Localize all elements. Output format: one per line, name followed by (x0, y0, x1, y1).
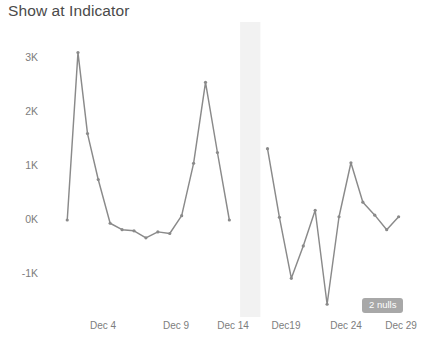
series-point (302, 244, 305, 247)
series-point (156, 230, 159, 233)
series-point (76, 51, 79, 54)
series-point (97, 178, 100, 181)
x-tick-label-dec-14: Dec 14 (217, 320, 249, 331)
series-point (278, 216, 281, 219)
series-point (266, 147, 269, 150)
nulls-badge[interactable]: 2 nulls (362, 298, 403, 313)
x-tick-label-dec-24: Dec 24 (330, 320, 362, 331)
series-points-after-nulls (266, 147, 400, 306)
series-point (120, 228, 123, 231)
series-point (168, 232, 171, 235)
series-point (373, 214, 376, 217)
series-point (144, 236, 147, 239)
series-point (86, 132, 89, 135)
series-point (204, 81, 207, 84)
x-tick-label-dec-29: Dec 29 (385, 320, 417, 331)
series-point (326, 303, 329, 306)
series-point (385, 228, 388, 231)
plot-area (0, 0, 424, 355)
series-point (290, 277, 293, 280)
series-point (337, 215, 340, 218)
null-gap-band (240, 22, 260, 317)
series-point (192, 162, 195, 165)
series-line-after-nulls (268, 149, 399, 305)
x-tick-label-dec-9: Dec 9 (163, 320, 189, 331)
x-tick-label-dec-4: Dec 4 (90, 320, 116, 331)
series-point (132, 229, 135, 232)
series-point (228, 218, 231, 221)
series-point (66, 218, 69, 221)
series-point (361, 201, 364, 204)
x-tick-label-dec-19: Dec19 (272, 320, 301, 331)
series-point (180, 214, 183, 217)
series-point (397, 215, 400, 218)
series-line-before-nulls (67, 53, 229, 238)
series-point (349, 161, 352, 164)
series-point (109, 222, 112, 225)
chart-container: Show at Indicator 3K 2K 1K 0K -1K Dec 4 … (0, 0, 424, 355)
series-point (314, 209, 317, 212)
series-point (216, 151, 219, 154)
